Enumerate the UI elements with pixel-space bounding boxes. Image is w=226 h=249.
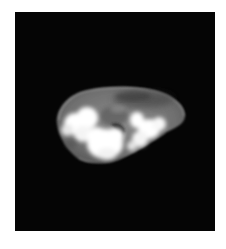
ct-scan-frame xyxy=(15,12,215,231)
ct-scan-image xyxy=(15,12,215,231)
image-canvas xyxy=(0,0,226,249)
